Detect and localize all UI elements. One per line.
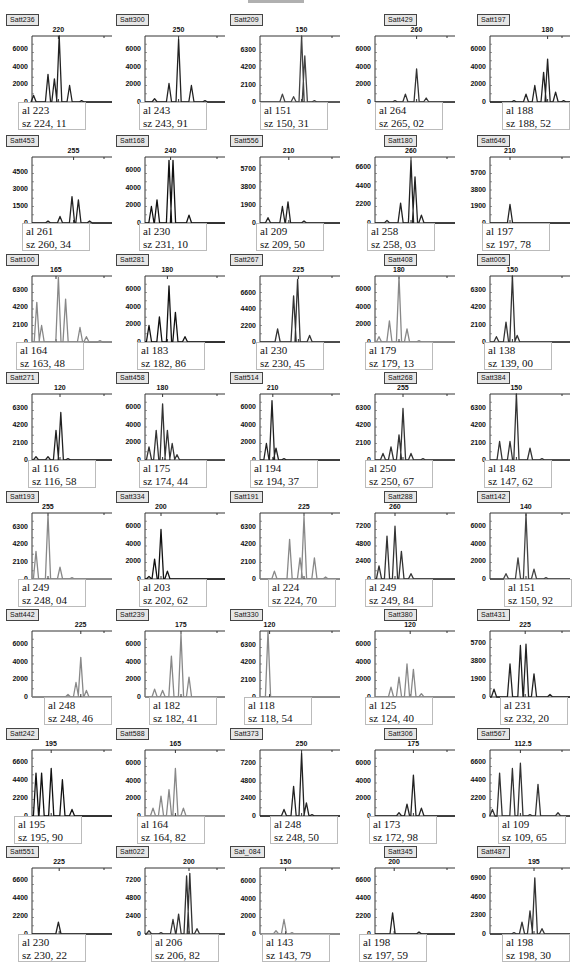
fragment-size: sz 197, 59 bbox=[363, 949, 423, 962]
y-axis-tick-label: 2200 bbox=[345, 200, 371, 207]
allele-call: al 230 bbox=[260, 344, 320, 357]
fragment-size: sz 118, 54 bbox=[248, 712, 308, 725]
fragment-size: sz 209, 50 bbox=[260, 238, 320, 251]
top-axis-reference-size: 175 bbox=[407, 740, 419, 747]
y-axis-tick-label: 2000 bbox=[115, 794, 141, 801]
y-axis-tick-label: 3000 bbox=[2, 185, 28, 192]
electropherogram-panel: Satt4422256000400020000al 248sz 248, 46 bbox=[2, 609, 114, 729]
y-axis-tick-label: 0 bbox=[115, 219, 141, 226]
peak-plot-area bbox=[260, 394, 340, 460]
electropherogram-panel: Satt0051506300420021000al 138sz 139, 00 bbox=[460, 254, 572, 374]
y-axis-tick-label: 6600 bbox=[460, 758, 486, 765]
marker-label: Satt487 bbox=[477, 846, 510, 858]
marker-label: Satt306 bbox=[384, 728, 417, 740]
y-axis-tick-label: 4000 bbox=[230, 895, 256, 902]
allele-size-box: al 151sz 150, 92 bbox=[504, 579, 572, 607]
y-axis-tick-label: 4200 bbox=[460, 303, 486, 310]
electropherogram-panel: Satt4871956900460023000al 198sz 198, 30 bbox=[460, 846, 572, 966]
y-axis-tick-label: 2100 bbox=[460, 321, 486, 328]
y-axis-tick-label: 6600 bbox=[230, 289, 256, 296]
y-axis-tick-label: 0 bbox=[230, 930, 256, 937]
y-axis-tick-label: 6000 bbox=[2, 45, 28, 52]
electropherogram-panel: Satt5562105700380019000al 209sz 209, 50 bbox=[230, 135, 342, 255]
y-axis-tick-label: 6600 bbox=[345, 876, 371, 883]
y-axis-tick-label: 6300 bbox=[230, 46, 256, 53]
y-axis-tick-label: 2200 bbox=[345, 912, 371, 919]
peak-plot-area bbox=[490, 276, 570, 342]
peak-plot-area bbox=[490, 157, 570, 223]
marker-label: Satt100 bbox=[6, 254, 39, 266]
allele-call: al 198 bbox=[506, 936, 566, 949]
top-axis-reference-size: 225 bbox=[75, 621, 87, 628]
y-axis-tick-label: 2100 bbox=[2, 439, 28, 446]
electropherogram-panel: Satt2421956600440022000al 195sz 195, 90 bbox=[2, 728, 114, 848]
peak-plot-area bbox=[145, 868, 225, 934]
fragment-size: sz 194, 37 bbox=[254, 475, 314, 488]
electropherogram-panel: Satt1802606600440022000al 258sz 258, 03 bbox=[345, 135, 457, 255]
top-axis-reference-size: 140 bbox=[520, 503, 532, 510]
y-axis-tick-label: 4400 bbox=[345, 182, 371, 189]
allele-size-box: al 203sz 202, 62 bbox=[139, 579, 207, 607]
peak-plot-area bbox=[260, 513, 340, 579]
top-axis-reference-size: 180 bbox=[157, 384, 169, 391]
peak-plot-area bbox=[32, 513, 112, 579]
peak-plot-area bbox=[375, 631, 455, 697]
peak-plot-area bbox=[375, 394, 455, 460]
top-axis-reference-size: 180 bbox=[542, 26, 554, 33]
allele-size-box: al 182sz 182, 41 bbox=[149, 697, 217, 725]
top-axis-reference-size: 220 bbox=[52, 26, 64, 33]
electropherogram-panel: Satt2672256600440022000al 230sz 230, 45 bbox=[230, 254, 342, 374]
electropherogram-panel: Satt3342006000400020000al 203sz 202, 62 bbox=[115, 491, 227, 611]
marker-label: Satt453 bbox=[6, 135, 39, 147]
fragment-size: sz 147, 62 bbox=[488, 475, 548, 488]
fragment-size: sz 197, 78 bbox=[486, 238, 546, 251]
allele-call: al 198 bbox=[363, 936, 423, 949]
y-axis-tick-label: 0 bbox=[460, 812, 486, 819]
fragment-size: sz 116, 58 bbox=[32, 475, 92, 488]
fragment-size: sz 230, 45 bbox=[260, 357, 320, 370]
peak-plot-area bbox=[145, 631, 225, 697]
allele-size-box: al 231sz 232, 20 bbox=[500, 697, 568, 725]
marker-label: Satt384 bbox=[477, 372, 510, 384]
marker-label: Satt330 bbox=[230, 609, 263, 621]
top-axis-reference-size: 180 bbox=[161, 266, 173, 273]
allele-call: al 125 bbox=[369, 699, 429, 712]
electropherogram-panel: Satt3301206300420021000al 118sz 118, 54 bbox=[230, 609, 342, 729]
electropherogram-panel: Satt5881656000400020000al 164sz 164, 82 bbox=[115, 728, 227, 848]
marker-label: Satt429 bbox=[384, 14, 417, 26]
y-axis-tick-label: 6000 bbox=[230, 877, 256, 884]
peak-plot-area bbox=[490, 513, 570, 579]
electropherogram-panel: Satt3002506000400020000al 243sz 243, 91 bbox=[115, 14, 227, 134]
allele-call: al 203 bbox=[143, 581, 203, 594]
y-axis-tick-label: 6600 bbox=[345, 163, 371, 170]
peak-plot-area bbox=[32, 631, 112, 697]
y-axis-tick-label: 4000 bbox=[115, 421, 141, 428]
electropherogram-panel: Satt1912256300420021000al 224sz 224, 70 bbox=[230, 491, 342, 611]
y-axis-tick-label: 2100 bbox=[460, 439, 486, 446]
y-axis-tick-label: 4200 bbox=[2, 421, 28, 428]
marker-label: Satt556 bbox=[230, 135, 263, 147]
y-axis-tick-label: 4000 bbox=[230, 421, 256, 428]
y-axis-tick-label: 2000 bbox=[115, 201, 141, 208]
peak-plot-area bbox=[32, 750, 112, 816]
peak-plot-area bbox=[260, 631, 340, 697]
peak-plot-area bbox=[490, 36, 570, 102]
marker-label: Satt345 bbox=[384, 846, 417, 858]
allele-size-box: al 198sz 198, 30 bbox=[502, 934, 570, 962]
allele-size-box: al 138sz 139, 00 bbox=[484, 342, 552, 370]
y-axis-tick-label: 6300 bbox=[230, 523, 256, 530]
allele-call: al 151 bbox=[264, 104, 324, 117]
y-axis-tick-label: 2100 bbox=[345, 439, 371, 446]
allele-size-box: al 209sz 209, 50 bbox=[256, 223, 324, 251]
y-axis-tick-label: 0 bbox=[460, 693, 486, 700]
allele-size-box: al 198sz 197, 59 bbox=[359, 934, 427, 962]
allele-call: al 182 bbox=[153, 699, 213, 712]
y-axis-tick-label: 6600 bbox=[2, 758, 28, 765]
fragment-size: sz 260, 34 bbox=[26, 238, 86, 251]
y-axis-tick-label: 2000 bbox=[345, 794, 371, 801]
allele-size-box: al 230sz 231, 10 bbox=[139, 223, 207, 251]
allele-size-box: al 206sz 206, 82 bbox=[151, 934, 219, 962]
peak-plot-area bbox=[375, 36, 455, 102]
fragment-size: sz 182, 86 bbox=[141, 357, 201, 370]
peak-plot-area bbox=[260, 36, 340, 102]
